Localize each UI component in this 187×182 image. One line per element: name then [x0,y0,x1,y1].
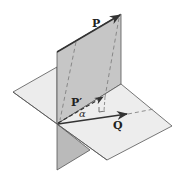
diagram-canvas: P P′ α Q [0,0,187,182]
horizontal-plane-back [13,67,57,124]
label-alpha: α [79,108,86,119]
label-P: P [92,17,100,30]
label-Q: Q [113,119,123,132]
projection-diagram: P P′ α Q [0,0,187,182]
